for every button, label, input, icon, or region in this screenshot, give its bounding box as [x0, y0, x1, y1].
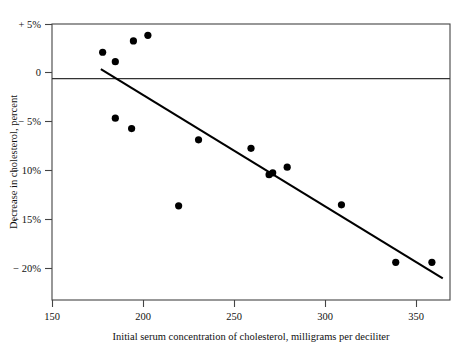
scatter-plot: + 5% 0 − 5% − 10% − 15% − 20% 150 200 25… — [0, 0, 466, 350]
y-tick-label-5: + 5% — [18, 19, 41, 30]
data-point — [112, 58, 119, 65]
data-point — [428, 259, 435, 266]
x-axis-tick-labels: 150 200 250 300 350 — [44, 311, 424, 322]
data-point — [392, 259, 399, 266]
data-point — [284, 164, 291, 171]
x-tick-label-150: 150 — [44, 311, 60, 322]
data-point — [112, 115, 119, 122]
data-point — [130, 37, 137, 44]
data-point — [338, 201, 345, 208]
x-axis-ticks — [53, 300, 417, 307]
y-axis-ticks — [45, 25, 52, 269]
data-points-group — [99, 32, 435, 266]
data-point — [99, 49, 106, 56]
data-point — [269, 169, 276, 176]
x-axis-title: Initial serum concentration of cholester… — [113, 331, 390, 342]
y-axis-title: Decrease in cholesterol, percent — [8, 95, 19, 229]
data-point — [175, 202, 182, 209]
data-point — [128, 125, 135, 132]
chart-figure: + 5% 0 − 5% − 10% − 15% − 20% 150 200 25… — [0, 0, 466, 350]
y-tick-label-neg20: − 20% — [13, 263, 41, 274]
data-point — [247, 145, 254, 152]
x-tick-label-300: 300 — [317, 311, 333, 322]
y-tick-label-0: 0 — [36, 67, 41, 78]
x-tick-label-250: 250 — [226, 311, 242, 322]
y-tick-label-neg5: − 5% — [18, 116, 41, 127]
data-point — [144, 32, 151, 39]
x-tick-label-200: 200 — [135, 311, 151, 322]
data-point — [195, 136, 202, 143]
x-tick-label-350: 350 — [408, 311, 424, 322]
